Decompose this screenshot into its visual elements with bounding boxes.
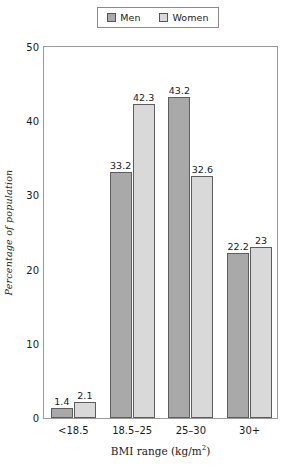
bar-group: 33.242.3 [110,47,155,418]
bar-value-label: 32.6 [192,164,213,175]
bar-value-label: 23 [255,235,267,246]
bar-group: 1.42.1 [51,47,96,418]
bar-men[interactable]: 43.2 [168,97,190,418]
y-tick-label: 0 [33,413,39,424]
bar-women[interactable]: 2.1 [74,402,96,418]
bar-women[interactable]: 32.6 [191,176,213,418]
legend-entry-men: Men [107,13,140,23]
chart-legend: Men Women [97,7,219,28]
bar-value-label: 1.4 [54,396,69,407]
bar-value-label: 33.2 [110,160,131,171]
legend-swatch-women-icon [159,13,168,22]
legend-entry-women: Women [159,13,208,23]
bar-value-label: 42.3 [133,92,154,103]
x-tick-label: 25–30 [176,425,206,436]
legend-label-women: Women [172,13,208,23]
bar-group: 22.223 [227,47,272,418]
y-tick-label: 20 [26,264,39,275]
bar-men[interactable]: 1.4 [51,408,73,418]
x-tick-label: 30+ [239,425,260,436]
bar-women[interactable]: 42.3 [133,104,155,418]
x-axis-title: BMI range (kg/m2) [43,444,278,457]
legend-swatch-men-icon [107,13,116,22]
x-tick-label: 18.5–25 [112,425,152,436]
x-tick-label: <18.5 [58,425,89,436]
legend-label-men: Men [120,13,140,23]
y-tick-label: 30 [26,190,39,201]
y-axis-title: Percentage of population [1,46,17,419]
bar-men[interactable]: 33.2 [110,172,132,418]
y-tick-label: 10 [26,338,39,349]
bar-value-label: 43.2 [169,85,190,96]
y-tick-label: 50 [26,42,39,53]
bar-women[interactable]: 23 [250,247,272,418]
plot-area: 01020304050 1.42.133.242.343.232.622.223… [43,46,278,419]
bar-value-label: 2.1 [77,390,92,401]
bar-men[interactable]: 22.2 [227,253,249,418]
bar-group: 43.232.6 [168,47,213,418]
y-axis-title-text: Percentage of population [4,170,15,296]
bar-value-label: 22.2 [228,241,249,252]
y-tick-label: 40 [26,116,39,127]
